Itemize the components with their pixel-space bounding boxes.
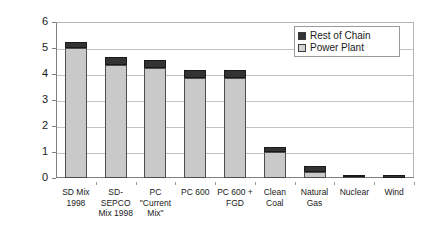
y-tick-label: 6 <box>28 15 48 27</box>
x-tick-mark <box>96 182 97 185</box>
bar-segment-rest-of-chain <box>264 147 286 152</box>
bar-segment-power-plant <box>264 152 286 178</box>
bar-segment-power-plant <box>184 78 206 178</box>
y-tick-mark <box>52 178 56 179</box>
x-label-line: Gas <box>292 198 338 209</box>
legend-swatch-rest-of-chain <box>298 32 306 40</box>
x-tick-mark <box>414 182 415 185</box>
x-tick-mark <box>334 182 335 185</box>
x-tick-mark <box>175 182 176 185</box>
legend-swatch-power-plant <box>298 44 306 52</box>
nox-emissions-bar-chart: NOx [g / kWh at busbar] 0123456 SD Mix19… <box>0 0 436 229</box>
x-axis-labels: SD Mix1998SD-SEPCOMix 1998PC"CurrentMix"… <box>56 182 414 229</box>
bar-segment-rest-of-chain <box>144 60 166 67</box>
bar-segment-rest-of-chain <box>65 42 87 48</box>
legend-item-rest-of-chain: Rest of Chain <box>298 30 396 41</box>
legend-label-power-plant: Power Plant <box>310 43 364 53</box>
x-tick-mark <box>255 182 256 185</box>
bar-segment-rest-of-chain <box>304 166 326 171</box>
x-label-line: Mix" <box>132 208 178 219</box>
y-tick-label: 4 <box>28 67 48 79</box>
y-tick-label: 2 <box>28 119 48 131</box>
x-label-line: "Current <box>132 198 178 209</box>
bar-segment-power-plant <box>65 48 87 178</box>
x-axis-label: Wind <box>371 187 417 198</box>
bar-segment-rest-of-chain <box>383 175 405 178</box>
x-tick-mark <box>374 182 375 185</box>
legend: Rest of Chain Power Plant <box>294 26 400 57</box>
bar-segment-power-plant <box>144 68 166 179</box>
bar-segment-rest-of-chain <box>105 57 127 65</box>
bar-segment-rest-of-chain <box>224 70 246 78</box>
x-tick-mark <box>295 182 296 185</box>
y-tick-label: 0 <box>28 171 48 183</box>
legend-item-power-plant: Power Plant <box>298 42 396 53</box>
y-axis-title: NOx [g / kWh at busbar] <box>0 0 24 229</box>
bar-segment-power-plant <box>304 172 326 179</box>
bar-segment-rest-of-chain <box>184 70 206 78</box>
y-tick-label: 1 <box>28 145 48 157</box>
bar-segment-power-plant <box>105 65 127 178</box>
bar-segment-rest-of-chain <box>343 175 365 178</box>
bar-segment-power-plant <box>224 78 246 178</box>
x-tick-mark <box>136 182 137 185</box>
y-tick-label: 3 <box>28 93 48 105</box>
x-tick-mark <box>215 182 216 185</box>
x-label-line: Wind <box>371 187 417 198</box>
y-tick-label: 5 <box>28 41 48 53</box>
legend-label-rest-of-chain: Rest of Chain <box>310 31 371 41</box>
